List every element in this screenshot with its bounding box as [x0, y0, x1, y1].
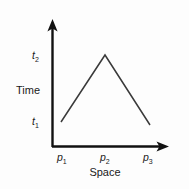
plot-canvas: t2 t1 Time p1 p2 p3 Space [0, 0, 189, 189]
y-tick-label-t1-sub: 1 [35, 122, 39, 129]
x-tick-label-p3-sub: 3 [149, 158, 153, 165]
x-tick-label-p1-sub: 1 [63, 158, 67, 165]
spacetime-diagram-figure: t2 t1 Time p1 p2 p3 Space [0, 0, 189, 189]
y-axis-title: Time [16, 84, 40, 96]
y-tick-label-t2-sub: 2 [35, 56, 39, 63]
x-tick-label-p2-sub: 2 [106, 158, 110, 165]
x-axis-title: Space [89, 166, 120, 178]
